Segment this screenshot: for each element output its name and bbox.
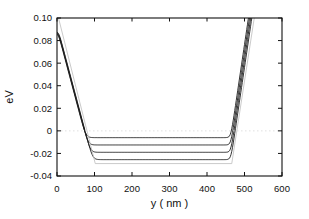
x-tick-label: 300 [162, 183, 178, 194]
x-tick-label: 400 [199, 183, 215, 194]
curves-layer [57, 0, 282, 164]
figure: 0100200300400500600-0.04-0.0200.020.040.… [0, 0, 309, 219]
x-tick-label: 500 [237, 183, 253, 194]
y-tick-label: -0.02 [30, 148, 52, 159]
y-tick-label: 0.02 [34, 103, 53, 114]
x-tick-label: 600 [274, 183, 290, 194]
y-axis-title: eV [3, 90, 15, 104]
x-tick-label: 200 [124, 183, 140, 194]
y-tick-label: 0 [47, 125, 52, 136]
y-tick-label: 0.08 [34, 35, 53, 46]
band-profile-chart: 0100200300400500600-0.04-0.0200.020.040.… [0, 0, 309, 219]
y-tick-label: 0.04 [34, 80, 53, 91]
y-tick-label: -0.04 [30, 170, 52, 181]
y-tick-label: 0.06 [34, 58, 53, 69]
y-tick-label: 0.10 [34, 12, 53, 23]
x-tick-label: 0 [54, 183, 59, 194]
x-tick-label: 100 [87, 183, 103, 194]
x-axis-title: y ( nm ) [151, 197, 188, 209]
band-profile-3 [57, 0, 282, 152]
